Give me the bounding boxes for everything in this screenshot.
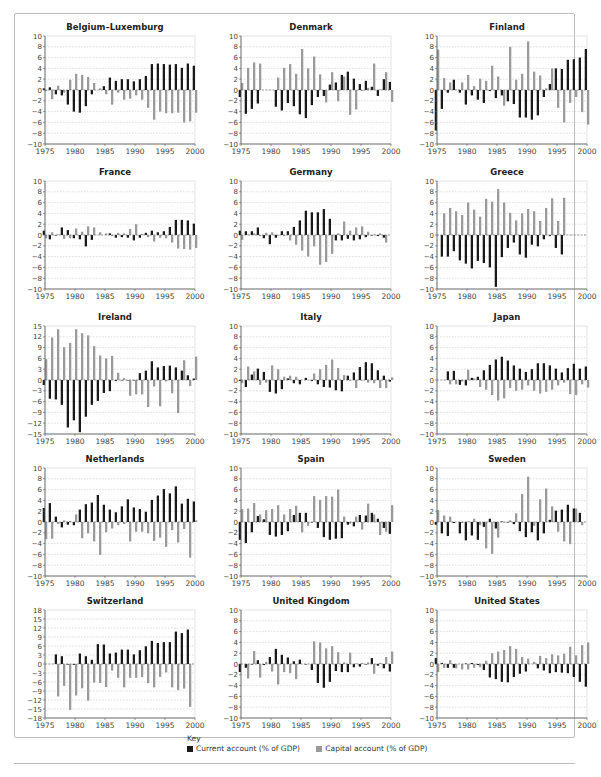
bar [525, 522, 527, 537]
bar [515, 649, 517, 664]
bar [67, 90, 69, 105]
bar [85, 656, 87, 664]
bar [373, 514, 375, 522]
y-tick-label: −6 [424, 551, 435, 559]
y-tick-label: 12 [33, 625, 42, 633]
bar [299, 380, 301, 384]
bar [103, 645, 105, 665]
bar [183, 90, 185, 122]
bar [91, 235, 93, 240]
y-tick-label: 2 [234, 221, 238, 229]
y-tick-label: −6 [228, 409, 239, 417]
bar [453, 80, 455, 90]
bar [533, 380, 535, 391]
bar [489, 519, 491, 522]
x-tick-label: 1990 [517, 721, 536, 730]
y-tick-label: 6 [234, 628, 239, 636]
bar [283, 514, 285, 522]
chart-panel-netherlands: Netherlands1086420−2−4−6−8−1019751980198… [20, 454, 210, 594]
bar [455, 380, 457, 384]
bar [275, 649, 277, 664]
bar [277, 369, 279, 380]
x-tick-label: 1990 [321, 292, 340, 301]
bar [163, 366, 165, 380]
bar [147, 235, 149, 237]
bar [135, 90, 137, 95]
y-tick-label: −2 [228, 387, 238, 395]
bar [49, 87, 51, 90]
bar [527, 659, 529, 664]
x-tick-label: 2000 [185, 721, 204, 730]
bar [325, 648, 327, 664]
bar [269, 380, 271, 392]
x-tick-label: 1985 [487, 721, 506, 730]
bar [129, 664, 131, 678]
bar [299, 660, 301, 664]
bar [521, 74, 523, 90]
bar [361, 226, 363, 235]
bar [177, 235, 179, 249]
bar [63, 90, 65, 93]
y-tick-label: −2 [228, 529, 238, 537]
bar [359, 367, 361, 380]
x-tick-label: 1980 [65, 147, 84, 156]
y-tick-label: −8 [424, 420, 434, 428]
bar [551, 198, 553, 235]
bar [169, 642, 171, 664]
bar [545, 208, 547, 235]
bar [509, 47, 511, 90]
y-tick-label: 2 [234, 76, 238, 84]
bar [341, 664, 343, 672]
x-tick-label: 1985 [487, 579, 506, 588]
bar [117, 522, 119, 525]
x-tick-label: 1990 [321, 721, 340, 730]
bar [313, 235, 315, 246]
y-tick-label: 2 [430, 76, 434, 84]
y-tick-label: −8 [228, 130, 238, 138]
bar [385, 380, 387, 388]
bar [335, 82, 337, 90]
bar [573, 509, 575, 523]
bar [537, 90, 539, 115]
x-tick-label: 1990 [125, 292, 144, 301]
bar [275, 235, 277, 238]
bar [515, 80, 517, 90]
y-tick-label: −6 [32, 398, 43, 406]
bar [325, 235, 327, 262]
bar [79, 380, 81, 432]
x-tick-label: 1975 [427, 292, 446, 301]
bar [563, 522, 565, 541]
chart-panel-belgium-luxemburg: Belgium–Luxemburg1086420−2−4−6−8−1019751… [20, 22, 210, 162]
bar [355, 517, 357, 522]
x-tick-label: 1995 [547, 437, 566, 446]
bar [325, 496, 327, 522]
bar [513, 522, 515, 524]
bar [495, 90, 497, 98]
bar [93, 522, 95, 541]
y-tick-label: 4 [430, 497, 435, 505]
bar [509, 380, 511, 388]
bar [195, 235, 197, 248]
bar-chart: 1086420−2−4−6−8−101975198019851990199520… [412, 454, 601, 594]
bar [491, 202, 493, 235]
x-tick-label: 1995 [351, 292, 370, 301]
bar [141, 90, 143, 100]
bar [117, 664, 119, 678]
bar [485, 199, 487, 235]
bar [319, 235, 321, 265]
bar [103, 505, 105, 522]
bar [551, 68, 553, 90]
bar [379, 522, 381, 535]
bar [477, 235, 479, 261]
bar [485, 81, 487, 90]
bar [93, 83, 95, 90]
bar [539, 499, 541, 522]
bar [283, 664, 285, 672]
bar [377, 90, 379, 96]
bar [359, 515, 361, 522]
bar [579, 58, 581, 90]
bar [275, 90, 277, 107]
bar [55, 654, 57, 664]
bar [87, 226, 89, 235]
bar [147, 664, 149, 683]
